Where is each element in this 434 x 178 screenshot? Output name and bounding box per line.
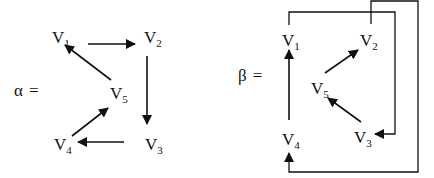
beta-edge-v3-v5	[328, 98, 361, 122]
alpha-label: α=	[14, 81, 39, 100]
beta-node-v1: V1	[282, 31, 300, 52]
alpha-node-v5: V5	[110, 84, 128, 105]
alpha-node-v4: V4	[54, 135, 72, 156]
beta-diagram: β= V1 V2 V5 V4 V3	[238, 1, 418, 172]
alpha-node-v3: V3	[145, 135, 163, 156]
beta-node-v5: V5	[311, 79, 329, 100]
beta-node-v2: V2	[360, 31, 378, 52]
beta-label: β=	[238, 66, 262, 85]
alpha-edge-v4-v5	[72, 108, 108, 136]
alpha-edge-v5-v1	[65, 45, 111, 80]
beta-edge-v5-v2	[325, 50, 358, 73]
beta-edge-v1-v3	[289, 12, 395, 134]
alpha-node-v2: V2	[144, 28, 162, 49]
beta-node-v3: V3	[354, 128, 372, 149]
alpha-diagram: α= V1 V2 V5 V4 V3	[14, 28, 163, 156]
permutation-diagrams: α= V1 V2 V5 V4 V3 β= V1 V2 V5 V4 V3	[0, 0, 434, 178]
beta-node-v4: V4	[282, 130, 300, 151]
